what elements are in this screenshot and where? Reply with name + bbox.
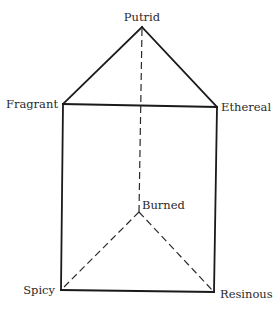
edge-burned-spicy [61, 212, 139, 290]
edge-spicy-resinous [61, 290, 214, 292]
edge-fragrant-spicy [61, 104, 63, 290]
edge-putrid-burned [139, 29, 142, 212]
edge-fragrant-ethereal [63, 104, 217, 107]
edge-ethereal-resinous [214, 107, 217, 292]
label-fragrant: Fragrant [6, 97, 58, 111]
dashed-edges [61, 29, 214, 292]
odor-prism-diagram: Putrid Fragrant Ethereal Burned Spicy Re… [0, 0, 280, 310]
edge-putrid-fragrant [63, 27, 142, 104]
edge-putrid-ethereal [142, 27, 217, 107]
edge-burned-resinous [139, 212, 214, 292]
label-putrid: Putrid [124, 10, 161, 24]
label-resinous: Resinous [220, 287, 273, 301]
solid-edges [61, 27, 217, 292]
label-ethereal: Ethereal [221, 100, 271, 114]
label-burned: Burned [142, 198, 186, 212]
label-spicy: Spicy [23, 283, 55, 297]
